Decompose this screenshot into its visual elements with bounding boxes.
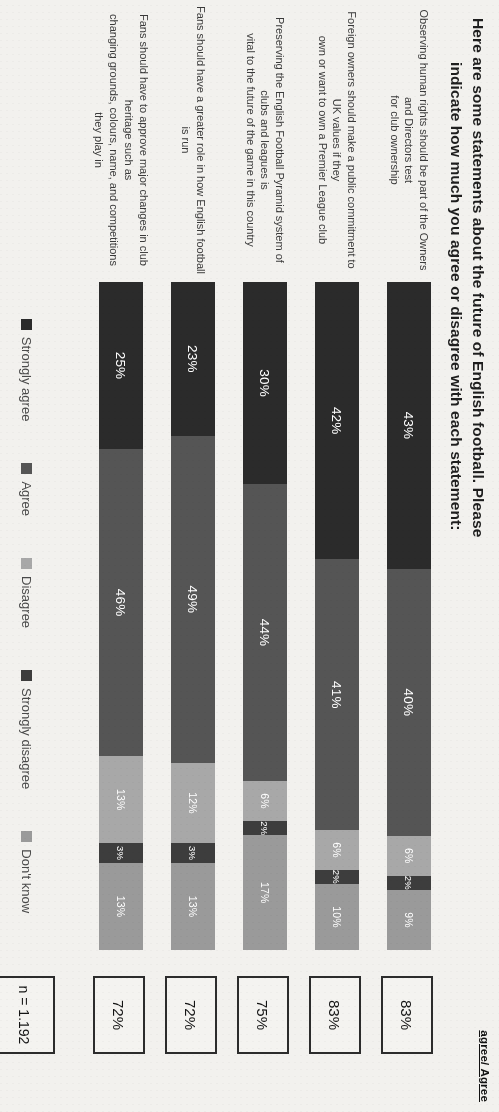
row-label: Preserving the English Football Pyramid … xyxy=(237,6,293,274)
bar-segment-value: 23% xyxy=(186,345,201,373)
bar-segment[interactable]: 3% xyxy=(171,843,215,863)
stacked-bar[interactable]: 25%46%13%3%13% xyxy=(99,282,143,950)
page-title-line-1: Here are some statements about the futur… xyxy=(470,18,487,537)
bar-segment-value: 6% xyxy=(331,842,343,858)
bar-segment[interactable]: 6% xyxy=(387,836,431,876)
chart-row: Preserving the English Football Pyramid … xyxy=(237,0,293,1112)
chart-row: Fans should have a greater role in how E… xyxy=(165,0,221,1112)
bar-segment-value: 40% xyxy=(402,689,417,717)
bar-segment[interactable]: 10% xyxy=(315,884,359,950)
chart-page: Here are some statements about the futur… xyxy=(0,0,499,1112)
row-total-box: 72% xyxy=(93,976,145,1054)
bar-segment[interactable]: 44% xyxy=(243,484,287,781)
total-column-header: agree/ Agree xyxy=(479,1030,491,1102)
row-label-line-2: for club ownership xyxy=(387,95,402,184)
bar-segment[interactable]: 3% xyxy=(99,843,143,863)
bar-segment[interactable]: 42% xyxy=(315,282,359,559)
bar-segment-value: 44% xyxy=(258,619,273,647)
row-label-line-1: Fans should have a greater role in how E… xyxy=(178,6,208,274)
bar-segment[interactable]: 6% xyxy=(315,830,359,870)
bar-segment-value: 12% xyxy=(187,792,199,814)
bar-segment-value: 10% xyxy=(331,906,343,928)
legend-swatch-icon xyxy=(22,558,33,569)
legend-label: Agree xyxy=(20,481,35,516)
legend-item[interactable]: Strongly disagree xyxy=(20,670,35,789)
chart-row: Foreign owners should make a public comm… xyxy=(309,0,365,1112)
bar-segment-value: 2% xyxy=(332,870,343,884)
bar-segment-value: 9% xyxy=(403,912,415,928)
row-label-line-2: own or want to own a Premier League club xyxy=(315,36,330,245)
bar-segment[interactable]: 17% xyxy=(243,835,287,950)
bar-segment[interactable]: 13% xyxy=(99,756,143,843)
bar-segment[interactable]: 9% xyxy=(387,890,431,950)
legend-label: Disagree xyxy=(20,576,35,628)
bar-segment[interactable]: 41% xyxy=(315,559,359,830)
bar-segment-value: 13% xyxy=(187,896,199,918)
chart-row: Observing human rights should be part of… xyxy=(381,0,437,1112)
bar-segment[interactable]: 12% xyxy=(171,763,215,843)
row-label: Foreign owners should make a public comm… xyxy=(309,6,365,274)
bar-segment[interactable]: 46% xyxy=(99,449,143,756)
bar-segment[interactable]: 25% xyxy=(99,282,143,449)
bar-segment-value: 6% xyxy=(403,848,415,864)
row-total-box: 72% xyxy=(165,976,217,1054)
bar-segment-value: 6% xyxy=(259,793,271,809)
legend-swatch-icon xyxy=(22,670,33,681)
row-label-line-1: Preserving the English Football Pyramid … xyxy=(258,6,288,274)
row-label: Fans should have to approve major change… xyxy=(93,6,149,274)
bar-segment-value: 3% xyxy=(116,846,127,860)
page-title: Here are some statements about the futur… xyxy=(444,18,489,1098)
stacked-bar[interactable]: 43%40%6%2%9% xyxy=(387,282,431,950)
row-label-line-2: changing grounds, colours, name, and com… xyxy=(91,6,121,274)
row-label-line-1: Foreign owners should make a public comm… xyxy=(330,6,360,274)
bar-segment[interactable]: 43% xyxy=(387,282,431,569)
bar-segment[interactable]: 40% xyxy=(387,569,431,836)
stacked-bar[interactable]: 42%41%6%2%10% xyxy=(315,282,359,950)
legend-label: Strongly disagree xyxy=(20,688,35,789)
legend-swatch-icon xyxy=(22,319,33,330)
row-total-box: 83% xyxy=(381,976,433,1054)
bar-segment-value: 2% xyxy=(260,821,271,835)
page-title-line-2: indicate how much you agree or disagree … xyxy=(444,18,466,1098)
stacked-bar[interactable]: 23%49%12%3%13% xyxy=(171,282,215,950)
legend-label: Strongly agree xyxy=(20,337,35,422)
row-label: Fans should have a greater role in how E… xyxy=(165,6,221,274)
bar-segment[interactable]: 2% xyxy=(243,821,287,835)
bar-segment[interactable]: 30% xyxy=(243,282,287,484)
row-total-box: 83% xyxy=(309,976,361,1054)
bar-segment-value: 41% xyxy=(330,681,345,709)
row-label-line-1: Observing human rights should be part of… xyxy=(402,6,432,274)
row-label-line-2: vital to the future of the game in this … xyxy=(243,33,258,246)
bar-segment[interactable]: 13% xyxy=(171,863,215,950)
bar-segment[interactable]: 2% xyxy=(387,876,431,890)
legend-item[interactable]: Don't know xyxy=(20,831,35,913)
bar-segment[interactable]: 49% xyxy=(171,436,215,763)
bar-segment-value: 42% xyxy=(330,407,345,435)
legend-item[interactable]: Agree xyxy=(20,463,35,516)
stacked-bar-chart: Observing human rights should be part of… xyxy=(57,0,437,1112)
legend-swatch-icon xyxy=(22,831,33,842)
bar-segment[interactable]: 2% xyxy=(315,870,359,884)
bar-segment-value: 2% xyxy=(404,876,415,890)
bar-segment-value: 17% xyxy=(259,882,271,904)
stacked-bar[interactable]: 30%44%6%2%17% xyxy=(243,282,287,950)
legend-item[interactable]: Strongly agree xyxy=(20,319,35,422)
legend-label: Don't know xyxy=(20,849,35,913)
bar-segment-value: 25% xyxy=(114,352,129,380)
bar-segment-value: 43% xyxy=(402,412,417,440)
bar-segment-value: 13% xyxy=(115,896,127,918)
bar-segment[interactable]: 6% xyxy=(243,781,287,821)
bar-segment-value: 49% xyxy=(186,585,201,613)
bar-segment[interactable]: 23% xyxy=(171,282,215,436)
bar-segment[interactable]: 13% xyxy=(99,863,143,950)
row-total-box: 75% xyxy=(237,976,289,1054)
legend-swatch-icon xyxy=(22,463,33,474)
bar-segment-value: 30% xyxy=(258,369,273,397)
bar-segment-value: 3% xyxy=(188,846,199,860)
bar-segment-value: 13% xyxy=(115,789,127,811)
bar-segment-value: 46% xyxy=(114,589,129,617)
row-label-line-1: Fans should have to approve major change… xyxy=(121,6,151,274)
chart-row: Fans should have to approve major change… xyxy=(93,0,149,1112)
row-label: Observing human rights should be part of… xyxy=(381,6,437,274)
legend-item[interactable]: Disagree xyxy=(20,558,35,628)
